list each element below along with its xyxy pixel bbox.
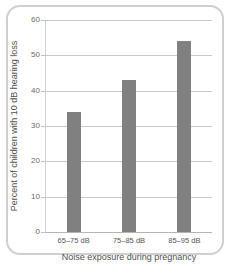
y-tick-mark-40 (41, 91, 46, 92)
x-tick-label-1: 65–75 dB (58, 237, 90, 245)
gridline-60 (46, 20, 212, 21)
bar-1 (67, 112, 81, 232)
bar-3 (177, 41, 191, 232)
gridline-0 (46, 232, 212, 233)
bar-2 (122, 80, 136, 232)
y-tick-label-0: 0 (36, 228, 40, 236)
y-tick-label-10: 10 (31, 193, 40, 201)
x-axis-title: Noise exposure during pregnancy (46, 252, 212, 262)
y-tick-mark-20 (41, 161, 46, 162)
y-tick-mark-30 (41, 126, 46, 127)
y-tick-mark-60 (41, 20, 46, 21)
page-artifact (158, 263, 198, 271)
y-tick-mark-0 (41, 232, 46, 233)
y-tick-label-30: 30 (31, 122, 40, 130)
y-tick-label-60: 60 (31, 16, 40, 24)
x-tick-label-3: 85–95 dB (168, 237, 200, 245)
x-tick-label-2: 75–85 dB (113, 237, 145, 245)
bar-chart-figure: 0102030405060 65–75 dB75–85 dB85–95 dB P… (0, 0, 238, 276)
y-tick-label-40: 40 (31, 87, 40, 95)
y-tick-mark-50 (41, 55, 46, 56)
y-tick-mark-10 (41, 197, 46, 198)
y-tick-label-50: 50 (31, 51, 40, 59)
y-tick-label-20: 20 (31, 157, 40, 165)
plot-area: 0102030405060 65–75 dB75–85 dB85–95 dB (46, 20, 212, 232)
y-axis-title: Percent of children with 10 dB hearing l… (9, 41, 19, 212)
